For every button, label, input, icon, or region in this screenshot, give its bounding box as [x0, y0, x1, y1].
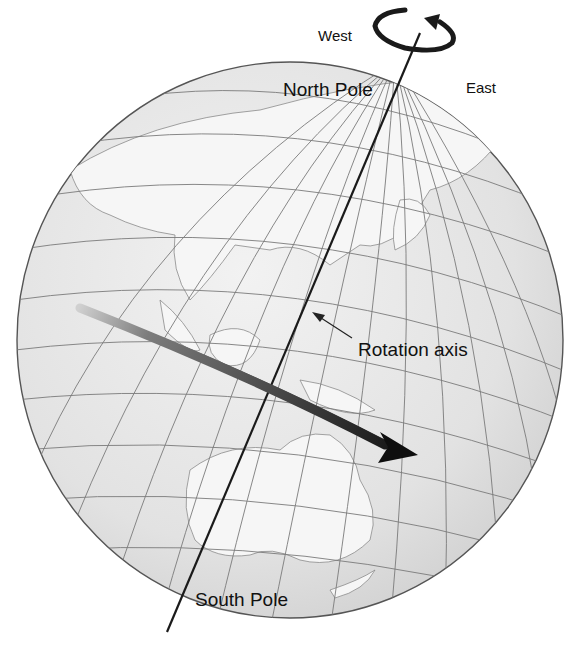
globe-diagram: West East North Pole Rotation axis South…: [0, 0, 582, 651]
south-pole-label: South Pole: [195, 589, 288, 611]
north-pole-label: North Pole: [283, 79, 373, 101]
west-label: West: [318, 27, 352, 44]
rotation-axis-label: Rotation axis: [358, 339, 468, 361]
east-label: East: [466, 79, 496, 96]
